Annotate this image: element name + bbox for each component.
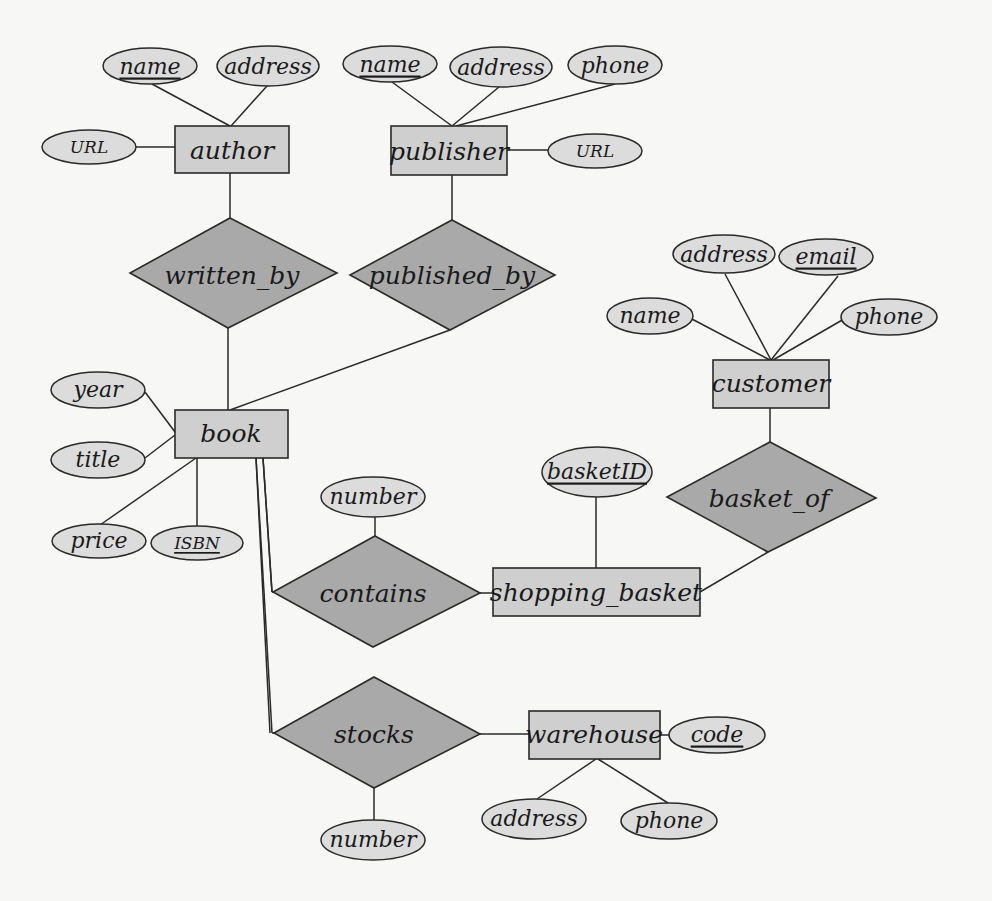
attr-warehouse-code[interactable]: code — [669, 717, 765, 753]
edge-customer-address — [725, 274, 771, 360]
attr-customer-name-label: name — [619, 303, 680, 328]
entity-publisher-label: publisher — [389, 137, 511, 166]
attr-publisher-url[interactable]: URL — [548, 134, 642, 168]
edge-book-title — [145, 435, 175, 458]
edge-basket-of-basket — [700, 552, 768, 592]
edge-author-address — [231, 86, 267, 126]
edge-publisher-name — [392, 82, 452, 126]
attr-customer-email-label: email — [795, 244, 856, 269]
attr-publisher-phone[interactable]: phone — [568, 46, 662, 84]
attr-customer-email[interactable]: email — [779, 239, 873, 275]
edge-author-name — [152, 84, 230, 126]
attr-customer-address-label: address — [680, 242, 767, 267]
attr-book-price[interactable]: price — [52, 524, 146, 558]
attr-book-year-label: year — [72, 377, 124, 402]
attr-book-year[interactable]: year — [51, 372, 145, 408]
edge-book-contains-inner — [256, 458, 264, 592]
attr-publisher-name-label: name — [359, 52, 420, 77]
edge-publisher-phone — [456, 84, 615, 126]
edge-customer-email — [771, 276, 838, 360]
edge-contains-corner — [263, 458, 272, 592]
attr-contains-number[interactable]: number — [321, 477, 425, 517]
attr-warehouse-phone-label: phone — [635, 808, 704, 833]
relationship-basket-of[interactable]: basket_of — [667, 442, 876, 552]
attr-book-title[interactable]: title — [51, 442, 145, 478]
entity-book-label: book — [200, 419, 261, 448]
entity-shopping-basket-label: shopping_basket — [490, 578, 703, 607]
entity-author[interactable]: author — [175, 126, 289, 173]
entity-warehouse[interactable]: warehouse — [525, 711, 663, 759]
entity-book[interactable]: book — [175, 410, 288, 458]
entity-publisher[interactable]: publisher — [389, 126, 511, 175]
edge-warehouse-phone — [598, 759, 668, 803]
er-diagram: author name address URL publisher name a… — [0, 0, 992, 901]
relationship-written-by[interactable]: written_by — [130, 218, 337, 328]
attr-author-address[interactable]: address — [217, 46, 319, 86]
attr-author-name[interactable]: name — [103, 48, 197, 84]
attr-author-url-label: URL — [70, 137, 108, 157]
relationship-published-by[interactable]: published_by — [350, 220, 555, 330]
attr-stocks-number[interactable]: number — [321, 820, 425, 860]
attr-book-price-label: price — [71, 528, 128, 553]
attr-publisher-phone-label: phone — [581, 53, 650, 78]
attr-publisher-address-label: address — [457, 55, 544, 80]
entity-customer-label: customer — [712, 369, 833, 398]
edge-published-by-book — [230, 330, 450, 410]
entity-warehouse-label: warehouse — [525, 720, 663, 749]
entity-shopping-basket[interactable]: shopping_basket — [490, 568, 703, 616]
attr-customer-phone-label: phone — [855, 304, 924, 329]
edge-book-year — [145, 392, 175, 432]
attr-book-title-label: title — [76, 447, 121, 472]
attr-publisher-name[interactable]: name — [343, 46, 437, 82]
attr-author-url[interactable]: URL — [42, 130, 136, 164]
attr-contains-number-label: number — [330, 484, 418, 509]
relationship-published-by-label: published_by — [369, 261, 536, 290]
entity-customer[interactable]: customer — [712, 360, 833, 408]
attr-customer-address[interactable]: address — [673, 235, 775, 273]
entity-author-label: author — [190, 136, 276, 165]
edge-customer-name — [690, 318, 770, 360]
attr-author-name-label: name — [119, 54, 180, 79]
relationship-contains[interactable]: contains — [273, 536, 480, 647]
attr-customer-name[interactable]: name — [607, 298, 693, 334]
relationship-basket-of-label: basket_of — [709, 484, 833, 513]
edge-book-stocks-inner — [264, 592, 272, 733]
relationship-written-by-label: written_by — [165, 261, 301, 290]
attr-author-address-label: address — [224, 54, 311, 79]
attr-warehouse-address-label: address — [490, 806, 577, 831]
attr-basket-basketid[interactable]: basketID — [542, 447, 652, 497]
relationship-contains-label: contains — [319, 579, 426, 608]
attr-basket-basketid-label: basketID — [547, 459, 647, 484]
edge-warehouse-address — [537, 759, 596, 799]
attr-book-isbn-label: ISBN — [173, 533, 221, 553]
relationship-stocks[interactable]: stocks — [274, 677, 480, 788]
attr-warehouse-phone[interactable]: phone — [621, 803, 717, 839]
attr-book-isbn[interactable]: ISBN — [151, 526, 243, 560]
attr-customer-phone[interactable]: phone — [841, 299, 937, 335]
relationship-stocks-label: stocks — [334, 720, 414, 749]
attr-warehouse-code-label: code — [691, 722, 744, 747]
attr-publisher-address[interactable]: address — [450, 47, 552, 87]
attr-stocks-number-label: number — [330, 827, 418, 852]
attr-warehouse-address[interactable]: address — [482, 799, 586, 839]
attr-publisher-url-label: URL — [576, 141, 614, 161]
edge-customer-phone — [773, 319, 844, 360]
